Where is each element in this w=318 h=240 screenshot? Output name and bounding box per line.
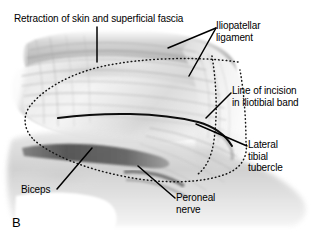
- label-biceps: Biceps: [21, 184, 50, 196]
- label-retraction-of-skin-and-superficial-fascia: Retraction of skin and superficial fasci…: [14, 13, 183, 25]
- anatomical-figure: Retraction of skin and superficial fasci…: [0, 0, 318, 240]
- figure-letter: B: [12, 215, 21, 230]
- label-lateral-tibial-tubercle: Lateral tibial tubercle: [248, 139, 283, 174]
- tissue-masses: [0, 27, 306, 232]
- label-line-of-incision-in-iliotibial-band: Line of incision in iliotibial band: [232, 85, 299, 108]
- label-peroneal-nerve: Peroneal nerve: [176, 192, 215, 215]
- anatomy-illustration: [0, 0, 318, 240]
- label-iliopatellar-ligament: Iliopatellar ligament: [216, 20, 260, 43]
